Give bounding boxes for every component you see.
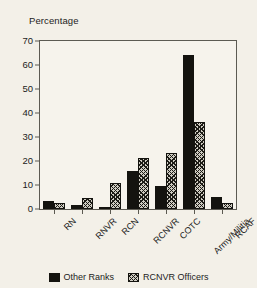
bar-group bbox=[155, 41, 177, 209]
y-axis: 010203040506070 bbox=[0, 40, 39, 210]
bar-group bbox=[71, 41, 93, 209]
bar-group bbox=[183, 41, 205, 209]
x-axis-tick-mark bbox=[82, 210, 83, 214]
y-axis-tick-mark bbox=[35, 65, 39, 66]
legend-swatch-icon bbox=[128, 273, 139, 282]
x-axis-tick-mark bbox=[222, 210, 223, 214]
y-axis-tick-label: 50 bbox=[22, 83, 33, 94]
legend-item: Other Ranks bbox=[49, 272, 115, 282]
bar bbox=[211, 197, 222, 209]
x-axis-tick-mark bbox=[166, 210, 167, 214]
x-axis-tick-label: RCN bbox=[120, 216, 141, 237]
bar-chart-figure: Percentage 010203040506070 RNRNVRRCNRCNV… bbox=[0, 0, 257, 288]
bar bbox=[138, 158, 149, 209]
x-axis-tick-label: RCNVR bbox=[151, 216, 181, 246]
bar bbox=[99, 207, 110, 209]
x-axis-tick-mark bbox=[194, 210, 195, 214]
x-axis-tick-label: RN bbox=[62, 216, 78, 232]
bar bbox=[166, 153, 177, 209]
bar bbox=[155, 186, 166, 209]
legend-swatch-icon bbox=[49, 273, 60, 282]
x-axis-tick-mark bbox=[110, 210, 111, 214]
bar bbox=[71, 205, 82, 209]
bar bbox=[222, 203, 233, 209]
y-axis-tick-mark bbox=[35, 137, 39, 138]
bar-group bbox=[43, 41, 65, 209]
y-axis-tick-mark bbox=[35, 89, 39, 90]
bar bbox=[43, 201, 54, 209]
bar bbox=[110, 183, 121, 209]
y-axis-tick-mark bbox=[35, 41, 39, 42]
y-axis-tick-label: 40 bbox=[22, 107, 33, 118]
y-axis-tick-label: 70 bbox=[22, 35, 33, 46]
x-axis-tick-mark bbox=[138, 210, 139, 214]
y-axis-tick-mark bbox=[35, 185, 39, 186]
x-axis-tick-label: RCAF bbox=[233, 216, 257, 240]
y-axis-tick-mark bbox=[35, 161, 39, 162]
y-axis-tick-label: 30 bbox=[22, 131, 33, 142]
y-axis-tick-label: 10 bbox=[22, 179, 33, 190]
y-axis-tick-label: 60 bbox=[22, 59, 33, 70]
x-axis-tick-mark bbox=[54, 210, 55, 214]
y-axis-tick-mark bbox=[35, 209, 39, 210]
bar bbox=[54, 203, 65, 209]
bar bbox=[82, 198, 93, 209]
bar-group bbox=[211, 41, 233, 209]
bar bbox=[183, 55, 194, 209]
bar-group bbox=[127, 41, 149, 209]
x-axis-tick-label: RNVR bbox=[93, 216, 118, 241]
legend-item: RCNVR Officers bbox=[128, 272, 208, 282]
chart-legend: Other RanksRCNVR Officers bbox=[0, 272, 257, 288]
legend-label: Other Ranks bbox=[64, 272, 115, 282]
y-axis-tick-label: 20 bbox=[22, 155, 33, 166]
x-axis: RNRNVRRCNRCNVRCOTCArmy/MilitiaRCAF bbox=[40, 210, 236, 260]
y-axis-title: Percentage bbox=[29, 15, 79, 26]
bar-group bbox=[99, 41, 121, 209]
x-axis-tick-label: COTC bbox=[177, 216, 202, 241]
y-axis-tick-mark bbox=[35, 113, 39, 114]
bar bbox=[127, 171, 138, 209]
legend-label: RCNVR Officers bbox=[143, 272, 208, 282]
y-axis-tick-label: 0 bbox=[28, 203, 33, 214]
bar bbox=[194, 122, 205, 209]
bars-layer bbox=[40, 41, 236, 209]
